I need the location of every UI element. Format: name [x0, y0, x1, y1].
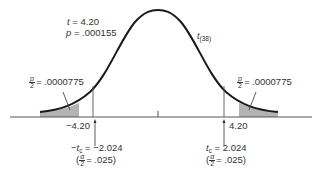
right-tail-probability-label: p2= .0000775: [237, 76, 292, 89]
p-over-2-fraction: p2: [237, 76, 243, 89]
right-t-value-label: 4.20: [229, 121, 248, 131]
alpha-over-2-fraction: α2: [209, 154, 215, 167]
left-t-value-label: −4.20: [66, 121, 90, 131]
p-over-2-fraction: p2: [29, 76, 35, 89]
p-value-label: p = .000155: [66, 28, 116, 38]
left-alpha-label: (α2= .025): [76, 154, 116, 167]
alpha-over-2-fraction: α2: [79, 154, 85, 167]
left-critical-arrowhead: [94, 119, 97, 123]
left-tail-shaded-region: [40, 103, 79, 117]
left-tail-probability-label: p2= .0000775: [29, 76, 84, 89]
right-alpha-label: (α2= .025): [206, 154, 246, 167]
distribution-label: t(38): [197, 31, 211, 44]
right-critical-arrowhead: [223, 119, 226, 123]
test-statistic-label: t = 4.20: [67, 17, 99, 27]
